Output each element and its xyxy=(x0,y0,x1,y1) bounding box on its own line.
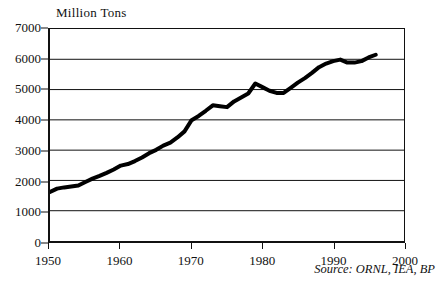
x-tick-mark xyxy=(262,243,263,249)
x-tick-label: 1970 xyxy=(178,253,204,269)
x-tick-mark xyxy=(119,243,120,249)
x-tick-mark xyxy=(48,243,49,249)
x-tick-label: 1960 xyxy=(106,253,132,269)
x-tick-mark xyxy=(405,243,406,249)
x-tick-label: 1950 xyxy=(35,253,61,269)
x-tick-mark xyxy=(191,243,192,249)
x-axis: 195019601970198019902000 xyxy=(0,0,447,285)
x-tick-label: 1980 xyxy=(249,253,275,269)
chart-screenshot: Million Tons 010002000300040005000600070… xyxy=(0,0,447,285)
x-tick-mark xyxy=(334,243,335,249)
source-annotation: Source: ORNL, IEA, BP xyxy=(314,262,435,277)
